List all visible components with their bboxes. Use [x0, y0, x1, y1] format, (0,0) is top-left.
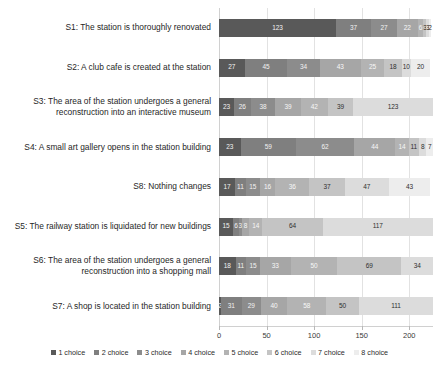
bar-segment: 29 — [242, 297, 261, 315]
bar-segment: 11 — [409, 138, 419, 156]
bar-segment: 36 — [275, 178, 309, 196]
bar-segment-value: 45 — [263, 64, 270, 71]
legend-swatch-icon — [94, 350, 99, 355]
legend-item[interactable]: 2 choice — [94, 348, 128, 357]
bar-segment-value: 15 — [249, 184, 256, 191]
bar-segment-value: 14 — [252, 223, 259, 230]
legend-swatch-icon — [311, 350, 316, 355]
category-label: S3: The area of the station undergoes a … — [0, 88, 211, 128]
x-axis-tick-label: 100 — [308, 331, 321, 340]
legend-label: 4 choice — [188, 348, 215, 357]
category-label-line: S7: A shop is located in the station bui… — [52, 301, 211, 312]
bar-segment: 39 — [328, 98, 353, 116]
bar-segment: 31 — [221, 297, 242, 315]
legend-item[interactable]: 3 choice — [137, 348, 171, 357]
legend-label: 1 choice — [58, 348, 85, 357]
x-axis-line — [219, 326, 433, 327]
category-label: S7: A shop is located in the station bui… — [0, 286, 211, 326]
bar-segment-value: 58 — [303, 303, 310, 310]
legend-label: 7 choice — [318, 348, 345, 357]
legend-item[interactable]: 4 choice — [181, 348, 215, 357]
bar-segment-value: 62 — [322, 144, 329, 151]
category-axis-labels: S1: The station is thoroughly renovatedS… — [0, 8, 215, 326]
bar-segment-value: 27 — [380, 25, 387, 32]
bar-segment-value: 50 — [310, 263, 317, 270]
x-axis-tick-label: 150 — [355, 331, 368, 340]
x-axis-tick — [362, 326, 363, 330]
bar-segment-value: 69 — [366, 263, 373, 270]
bar-segment: 37 — [336, 19, 371, 37]
bar-segment-value: 18 — [224, 263, 231, 270]
bar-segment: 15 — [246, 178, 260, 196]
bar-segment-value: 6 — [234, 223, 238, 230]
bar-segment-value: 44 — [371, 144, 378, 151]
bar-segment: 23 — [219, 138, 241, 156]
bar-segment: 64 — [262, 218, 322, 236]
x-axis-tick-label: 0 — [217, 331, 221, 340]
bar-segment: 123 — [353, 98, 433, 116]
bar-row: 156381464117 — [219, 207, 433, 247]
bar-segment-value: 39 — [337, 104, 344, 111]
bar-segment-value: 37 — [323, 184, 330, 191]
bar-segment-value: 10 — [403, 64, 410, 71]
bar-segment-value: 11 — [238, 263, 245, 270]
bar-segment-value: 64 — [289, 223, 296, 230]
bar-segment-value: 43 — [406, 184, 413, 191]
bar-segment: 15 — [246, 257, 260, 275]
legend-item[interactable]: 7 choice — [311, 348, 345, 357]
stacked-bar: 1233727226332 — [219, 19, 433, 37]
x-axis-tick-label: 50 — [262, 331, 270, 340]
bar-segment-value: 50 — [339, 303, 346, 310]
bar-segment: 26 — [234, 98, 251, 116]
x-axis-tick-label: 200 — [403, 331, 416, 340]
bar-segment: 23 — [219, 98, 234, 116]
category-label-line: S8: Nothing changes — [133, 181, 211, 192]
bar-segment-value: 8 — [421, 144, 425, 151]
chart-legend: 1 choice2 choice3 choice4 choice5 choice… — [0, 348, 439, 357]
legend-item[interactable]: 1 choice — [51, 348, 85, 357]
bar-segment-value: 15 — [223, 223, 230, 230]
bar-segment-value: 17 — [224, 184, 231, 191]
stacked-bar: 23596244141187 — [219, 138, 433, 156]
bar-segment: 17 — [219, 178, 235, 196]
bar-segment: 50 — [291, 257, 338, 275]
bar-segment-value: 111 — [391, 303, 401, 310]
bar-segment-value: 22 — [404, 25, 411, 32]
legend-swatch-icon — [267, 350, 272, 355]
bar-segment-value: 14 — [399, 144, 406, 151]
legend-swatch-icon — [181, 350, 186, 355]
bar-segment: 111 — [359, 297, 433, 315]
legend-item[interactable]: 6 choice — [267, 348, 301, 357]
category-label-line: S5: The railway station is liquidated fo… — [15, 221, 211, 232]
bar-segment-value: 34 — [300, 64, 307, 71]
bar-segment-value: 123 — [272, 25, 283, 32]
legend-swatch-icon — [51, 350, 56, 355]
bar-segment-value: 43 — [337, 64, 344, 71]
bar-segment-value: 123 — [388, 104, 399, 111]
bar-segment: 2 — [429, 19, 431, 37]
category-label: S2: A club cafe is created at the statio… — [0, 48, 211, 88]
bar-segment-value: 34 — [414, 263, 421, 270]
bar-segment-value: 117 — [373, 223, 383, 230]
bar-segment: 38 — [251, 98, 276, 116]
stacked-bar-chart: S1: The station is thoroughly renovatedS… — [0, 0, 439, 371]
bar-row: 18111533506934 — [219, 247, 433, 287]
bar-row: 23129405850111 — [219, 286, 433, 326]
category-label-line: reconstruction into an interactive museu… — [33, 107, 211, 118]
bar-segment-value: 40 — [271, 303, 278, 310]
bar-segment: 20 — [411, 59, 430, 77]
bar-segment-value: 20 — [417, 64, 424, 71]
bar-segment: 18 — [384, 59, 401, 77]
bar-segment-value: 7 — [428, 144, 432, 151]
bar-segment: 47 — [345, 178, 390, 196]
legend-item[interactable]: 8 choice — [354, 348, 388, 357]
category-label-line: reconstruction into a shopping mall — [33, 266, 211, 277]
legend-item[interactable]: 5 choice — [224, 348, 258, 357]
bar-segment-value: 33 — [272, 263, 279, 270]
bar-segment-value: 47 — [363, 184, 370, 191]
bar-segment-value: 26 — [239, 104, 246, 111]
bar-segment: 42 — [301, 98, 328, 116]
bar-segment: 62 — [296, 138, 354, 156]
bar-segment-value: 2 — [428, 25, 432, 32]
bar-segment-value: 36 — [289, 184, 296, 191]
